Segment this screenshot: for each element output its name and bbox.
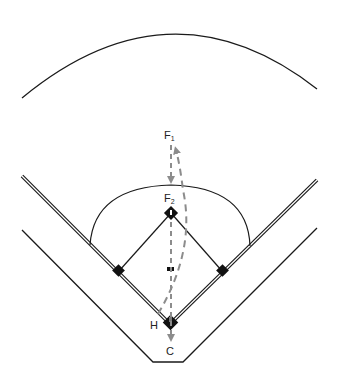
- label-f1-main: F: [164, 129, 171, 141]
- outfield-fence-arc: [22, 34, 317, 98]
- arrow-home-to-f1-curved: [158, 150, 186, 314]
- outer-foul-line-boundary: [22, 228, 317, 362]
- label-f2-main: F: [164, 192, 171, 204]
- label-home: H: [150, 320, 158, 331]
- label-f1-sub: 1: [171, 135, 175, 142]
- baseball-field-diagram: [0, 0, 343, 380]
- label-f2: F2: [164, 193, 175, 205]
- label-f1: F1: [164, 130, 175, 142]
- label-catcher: C: [166, 346, 174, 357]
- label-f2-sub: 2: [171, 198, 175, 205]
- left-foul-line: [22, 176, 170, 324]
